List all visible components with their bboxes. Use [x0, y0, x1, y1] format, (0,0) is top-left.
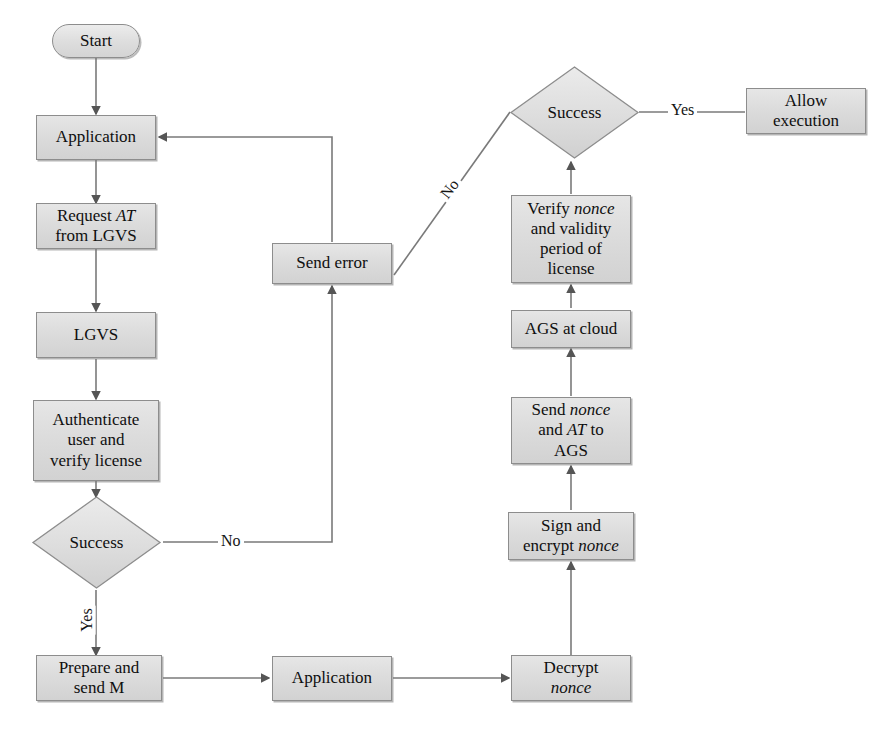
node-application-bottom[interactable]: Application: [272, 656, 392, 701]
node-request-at[interactable]: Request AT from LGVS: [36, 203, 156, 249]
node-application-top[interactable]: Application: [36, 115, 156, 160]
edge-label-no-left: No: [218, 532, 244, 550]
flowchart-canvas: Start Application Request AT from LGVS L…: [0, 0, 895, 735]
edge-senderror-application1: [159, 137, 332, 242]
node-allow-line2: execution: [773, 111, 839, 131]
node-sign-line1: Sign and: [541, 516, 601, 536]
node-sendnonce-line2: and AT to: [538, 420, 604, 440]
node-ags-cloud[interactable]: AGS at cloud: [511, 310, 631, 348]
node-decrypt-nonce[interactable]: Decrypt nonce: [511, 655, 631, 701]
edge-label-yes-right: Yes: [668, 101, 697, 119]
node-request-at-line1: Request AT: [57, 206, 135, 226]
node-authenticate-line1: Authenticate: [53, 410, 140, 430]
node-verify-line3: period of: [540, 239, 602, 259]
node-sign-line2: encrypt nonce: [523, 536, 619, 556]
node-verify-line2: and validity: [531, 219, 612, 239]
node-send-nonce[interactable]: Send nonce and AT to AGS: [511, 397, 631, 464]
node-success-left[interactable]: Success: [31, 495, 162, 590]
node-authenticate-line3: verify license: [50, 451, 142, 471]
node-sign-encrypt[interactable]: Sign and encrypt nonce: [508, 512, 634, 560]
node-sendnonce-line3: AGS: [554, 441, 588, 461]
node-application-bottom-label: Application: [292, 668, 372, 688]
node-verify-line4: license: [547, 259, 594, 279]
node-request-at-line2: from LGVS: [55, 226, 137, 246]
node-start-label: Start: [80, 31, 112, 51]
node-lgvs[interactable]: LGVS: [36, 312, 156, 358]
node-send-error[interactable]: Send error: [272, 243, 392, 284]
node-authenticate-line2: user and: [67, 430, 124, 450]
node-application-top-label: Application: [56, 127, 136, 147]
node-ags-cloud-label: AGS at cloud: [525, 319, 618, 339]
node-prepare-line1: Prepare and: [59, 658, 140, 678]
edge-label-yes-left: Yes: [78, 605, 96, 634]
node-sendnonce-line1: Send nonce: [532, 400, 611, 420]
node-start[interactable]: Start: [52, 24, 140, 58]
node-prepare-send[interactable]: Prepare and send M: [36, 655, 162, 701]
node-verify-nonce[interactable]: Verify nonce and validity period of lice…: [511, 195, 631, 283]
diamond-shape-left: [31, 495, 162, 590]
edge-success1-senderror: [163, 286, 332, 542]
node-success-right[interactable]: Success: [509, 65, 640, 160]
node-prepare-line2: send M: [74, 678, 125, 698]
node-decrypt-line2: nonce: [551, 678, 592, 698]
node-verify-line1: Verify nonce: [527, 199, 614, 219]
node-lgvs-label: LGVS: [74, 325, 118, 345]
node-decrypt-line1: Decrypt: [544, 658, 599, 678]
node-authenticate[interactable]: Authenticate user and verify license: [33, 400, 159, 481]
diamond-shape-right: [509, 65, 640, 160]
node-send-error-label: Send error: [296, 253, 367, 273]
node-allow-execution[interactable]: Allow execution: [746, 88, 866, 134]
node-allow-line1: Allow: [785, 91, 828, 111]
